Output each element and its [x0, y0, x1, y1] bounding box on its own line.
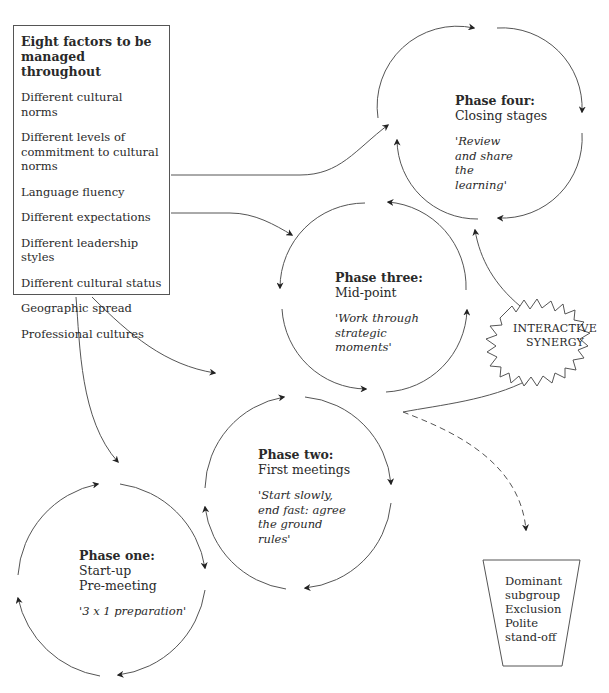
outcome-line: Dominant — [505, 574, 562, 588]
arrow-to-synergy — [403, 380, 528, 412]
phase-three-quote: 'Work through strategic moments' — [335, 311, 425, 355]
outcome-line: stand-off — [505, 630, 562, 644]
synergy-line-1: INTERACTIVE — [512, 322, 598, 336]
arrow-box-to-phase-three — [171, 213, 292, 235]
phase-one-quote: '3 x 1 preparation' — [79, 604, 189, 619]
factor-item: Different leadership styles — [21, 236, 162, 265]
phase-two-subtitle: First meetings — [258, 462, 368, 477]
phase-four-label: Phase four: Closing stages 'Review and s… — [455, 93, 565, 192]
factor-item: Different levels of commitment to cultur… — [21, 130, 162, 174]
outcome-line: Exclusion — [505, 602, 562, 616]
phase-two-label: Phase two: First meetings 'Start slowly,… — [258, 447, 368, 546]
factors-box: Eight factors to be managed throughout D… — [13, 25, 170, 295]
arrow-box-to-phase-four — [171, 125, 388, 175]
outcome-box-text: Dominant subgroup Exclusion Polite stand… — [505, 574, 562, 644]
factor-item: Different cultural norms — [21, 90, 162, 119]
arrow-box-to-phase-one — [76, 297, 118, 462]
arrow-synergy-to-phase-four — [475, 230, 520, 306]
phase-two-quote: 'Start slowly, end fast: agree the groun… — [258, 488, 353, 546]
synergy-line-2: SYNERGY — [512, 336, 598, 350]
phase-three-title: Phase three: — [335, 270, 445, 285]
phase-three-label: Phase three: Mid-point 'Work through str… — [335, 270, 445, 355]
dashed-arrow-to-outcome — [403, 412, 526, 530]
factor-item: Different expectations — [21, 210, 162, 225]
factor-item: Different cultural status — [21, 276, 162, 291]
factor-item: Professional cultures — [21, 327, 162, 342]
outcome-line: subgroup — [505, 588, 562, 602]
phase-one-subtitle-2: Pre-meeting — [79, 578, 189, 593]
factor-item: Geographic spread — [21, 301, 162, 316]
factors-box-title: Eight factors to be managed throughout — [21, 34, 162, 79]
phase-one-subtitle: Start-up — [79, 563, 189, 578]
outcome-line: Polite — [505, 616, 562, 630]
phase-four-quote: 'Review and share the learning' — [455, 134, 525, 192]
phase-two-title: Phase two: — [258, 447, 368, 462]
factor-item: Language fluency — [21, 185, 162, 200]
synergy-label: INTERACTIVE SYNERGY — [512, 322, 598, 350]
phase-one-label: Phase one: Start-up Pre-meeting '3 x 1 p… — [79, 548, 189, 619]
phase-four-title: Phase four: — [455, 93, 565, 108]
phase-one-title: Phase one: — [79, 548, 189, 563]
phase-three-subtitle: Mid-point — [335, 285, 445, 300]
phase-four-subtitle: Closing stages — [455, 108, 565, 123]
